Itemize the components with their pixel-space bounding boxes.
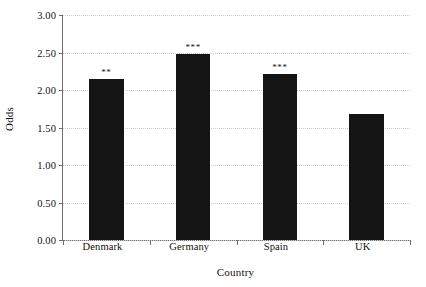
y-tick-mark <box>59 90 63 91</box>
gridline <box>63 53 410 54</box>
y-tick-mark <box>59 128 63 129</box>
bar-spain[interactable] <box>263 74 298 240</box>
y-tick-mark <box>59 203 63 204</box>
significance-germany: *** <box>185 43 200 52</box>
y-tick-label: 3.00 <box>37 10 56 21</box>
bar-uk[interactable] <box>349 114 384 240</box>
x-tick-label-uk: UK <box>355 241 370 252</box>
x-tick-label-germany: Germany <box>169 241 209 252</box>
y-tick-mark <box>59 15 63 16</box>
y-axis-label: Odds <box>3 84 15 154</box>
plot-area: 0.00 0.50 1.00 1.50 2.00 2.50 3.00 ** * <box>62 15 410 241</box>
y-tick-mark <box>59 165 63 166</box>
significance-spain: *** <box>272 63 287 72</box>
x-tick-mark <box>237 240 238 245</box>
y-tick-label: 2.50 <box>37 47 56 58</box>
significance-denmark: ** <box>101 68 111 77</box>
y-tick-label: 1.00 <box>37 160 56 171</box>
y-tick-label: 0.50 <box>37 197 56 208</box>
y-tick-label: 2.00 <box>37 85 56 96</box>
x-tick-mark <box>323 240 324 245</box>
bar-germany[interactable] <box>176 54 211 240</box>
y-tick-mark <box>59 53 63 54</box>
x-axis-label: Country <box>62 266 409 278</box>
x-tick-mark <box>150 240 151 245</box>
x-tick-label-denmark: Denmark <box>83 241 123 252</box>
y-tick-label: 1.50 <box>37 122 56 133</box>
x-tick-label-spain: Spain <box>264 241 288 252</box>
x-tick-mark <box>410 240 411 245</box>
bar-denmark[interactable] <box>89 79 124 240</box>
bar-chart-figure: Odds Country 0.00 0.50 1.00 1.50 2.00 2.… <box>0 0 426 287</box>
y-tick-label: 0.00 <box>37 235 56 246</box>
x-tick-mark <box>63 240 64 245</box>
gridline <box>63 15 410 16</box>
